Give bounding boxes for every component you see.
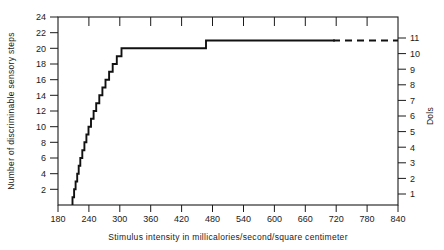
y-tick-label: 20: [36, 44, 46, 54]
x-tick-label: 480: [205, 214, 220, 224]
y2-tick-label: 9: [410, 65, 415, 75]
x-tick-label: 720: [329, 214, 344, 224]
y-tick-label: 6: [41, 153, 46, 163]
y-tick-label: 12: [36, 106, 46, 116]
y2-tick-label: 3: [410, 158, 415, 168]
y-tick-label: 8: [41, 138, 46, 148]
y2-tick-label: 2: [410, 174, 415, 184]
x-tick-label: 600: [267, 214, 282, 224]
y2-tick-label: 8: [410, 80, 415, 90]
y-axis-ticks-left: [50, 17, 58, 189]
x-tick-label: 360: [143, 214, 158, 224]
y2-axis-tick-labels: 1 2 3 4 5 6 7 8 9 10 11: [410, 33, 420, 199]
x-axis-ticks-top: [89, 17, 367, 26]
x-tick-label: 180: [50, 214, 65, 224]
x-axis-title: Stimulus intensity in millicalories/seco…: [108, 232, 348, 242]
y-tick-label: 4: [41, 169, 46, 179]
y2-tick-label: 6: [410, 111, 415, 121]
y2-tick-label: 11: [410, 33, 419, 43]
y2-tick-label: 5: [410, 127, 415, 137]
x-axis-ticks-bottom: [58, 205, 398, 212]
y2-tick-label: 7: [410, 96, 415, 106]
x-axis-tick-labels: 180 240 300 360 420 480 540 600 660 720 …: [50, 214, 405, 224]
staircase-series: [73, 41, 336, 206]
y-tick-label: 16: [36, 75, 46, 85]
y-tick-label: 2: [41, 185, 46, 195]
plot-frame: [58, 17, 398, 205]
x-tick-label: 540: [236, 214, 251, 224]
chart-figure: 180 240 300 360 420 480 540 600 660 720 …: [0, 0, 444, 250]
x-tick-label: 840: [390, 214, 405, 224]
y-axis-title: Number of discriminable sensory steps: [6, 32, 16, 190]
y-tick-label: 18: [36, 59, 46, 69]
y-axis-tick-labels: 2 4 6 8 10 12 14 16 18 20 22 24: [36, 12, 46, 194]
y-tick-label: 10: [36, 122, 46, 132]
x-tick-label: 660: [298, 214, 313, 224]
y-tick-label: 22: [36, 28, 46, 38]
x-tick-label: 240: [81, 214, 96, 224]
x-tick-label: 420: [174, 214, 189, 224]
y2-axis-title: Dols: [425, 107, 435, 125]
x-tick-label: 780: [360, 214, 375, 224]
y2-tick-label: 10: [410, 49, 420, 59]
y-tick-label: 24: [36, 12, 46, 22]
y-tick-label: 14: [36, 91, 46, 101]
x-tick-label: 300: [112, 214, 127, 224]
y2-axis-ticks-right: [398, 38, 406, 194]
chart-canvas: 180 240 300 360 420 480 540 600 660 720 …: [0, 0, 444, 250]
y2-tick-label: 4: [410, 143, 415, 153]
y2-tick-label: 1: [410, 189, 415, 199]
